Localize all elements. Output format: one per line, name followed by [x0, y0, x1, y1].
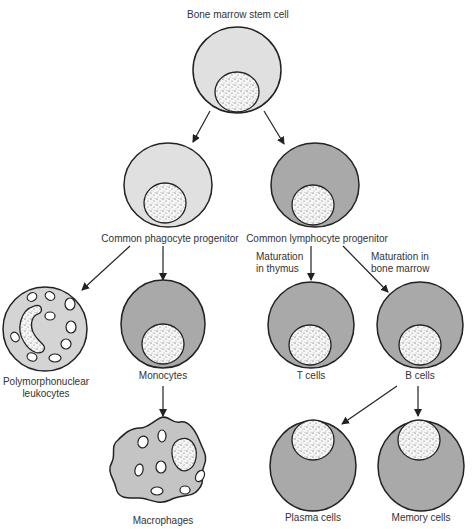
- label-lymphocyte: Common lymphocyte progenitor: [242, 233, 392, 245]
- arrow-stem-to-phagocyte: [193, 111, 210, 142]
- lymphocyte-progenitor-cell: [271, 143, 359, 227]
- label-marrow-line2: bone marrow: [371, 263, 429, 275]
- label-thymus-line1: Maturation: [256, 251, 303, 263]
- stem-cell: [193, 27, 281, 113]
- label-monocytes: Monocytes: [123, 370, 203, 382]
- plasma-cell: [270, 420, 356, 511]
- macrophage-cell: [110, 417, 207, 502]
- label-stem: Bone marrow stem cell: [187, 9, 287, 21]
- label-pmn-line1: Polymorphonuclear: [0, 376, 92, 388]
- pmn-cell: [3, 287, 87, 371]
- label-marrow-line1: Maturation in: [371, 251, 429, 263]
- t-cell: [268, 282, 354, 368]
- b-cell: [377, 282, 463, 368]
- monocyte-cell: [121, 280, 205, 368]
- arrow-stem-to-lymphocyte: [264, 111, 284, 144]
- label-pmn-line2: leukocytes: [0, 388, 92, 400]
- label-bcells: B cells: [380, 370, 460, 382]
- label-phagocyte: Common phagocyte progenitor: [95, 233, 245, 245]
- label-macrophages: Macrophages: [118, 515, 208, 527]
- arrow-bcells-to-plasma: [342, 386, 397, 424]
- label-plasma: Plasma cells: [268, 512, 358, 524]
- label-tcells: T cells: [271, 370, 351, 382]
- memory-cell: [378, 420, 464, 511]
- arrow-phagocyte-to-pmn: [82, 246, 130, 290]
- label-thymus-line2: in thymus: [256, 263, 299, 275]
- phagocyte-progenitor-cell: [124, 143, 212, 227]
- label-memory: Memory cells: [376, 512, 466, 524]
